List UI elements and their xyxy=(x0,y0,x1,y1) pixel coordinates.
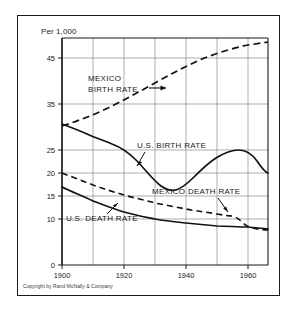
annotation-us-death-rate-arrowhead xyxy=(113,203,118,207)
y-tick-labels: 45 35 25 20 15 10 0 xyxy=(47,54,55,270)
annotation-mexico-death-rate-label: MEXICO DEATH RATE xyxy=(152,187,240,196)
x-tick-labels: 1900 1920 1940 1960 xyxy=(54,271,257,280)
x-tick-1960: 1960 xyxy=(240,271,257,280)
annotation-mexico-birth-rate-line2: BIRTH RATE xyxy=(88,85,138,94)
y-tick-25: 25 xyxy=(47,146,55,155)
y-tick-0: 0 xyxy=(51,261,55,270)
x-gridlines xyxy=(93,38,248,265)
annotation-mexico-death-rate-arrowhead xyxy=(223,207,228,212)
copyright-notice: Copyright by Rand McNally & Company xyxy=(23,283,113,289)
chart-page: Per 1,000 xyxy=(0,0,299,313)
annotation-us-birth-rate-label: U.S. BIRTH RATE xyxy=(137,141,206,150)
annotation-us-birth-rate: U.S. BIRTH RATE xyxy=(137,141,206,166)
x-tick-marks xyxy=(62,265,248,269)
annotation-mexico-death-rate: MEXICO DEATH RATE xyxy=(152,187,240,212)
x-tick-1900: 1900 xyxy=(54,271,71,280)
annotation-mexico-birth-rate-arrowhead xyxy=(161,86,167,91)
y-tick-15: 15 xyxy=(47,192,55,201)
x-tick-1940: 1940 xyxy=(178,271,195,280)
line-chart: 45 35 25 20 15 10 0 1900 1920 1940 1960 xyxy=(0,0,299,313)
y-tick-20: 20 xyxy=(47,169,55,178)
y-tick-10: 10 xyxy=(47,215,55,224)
y-tick-45: 45 xyxy=(47,54,55,63)
annotation-us-death-rate-label: U.S. DEATH RATE xyxy=(66,214,138,223)
y-tick-35: 35 xyxy=(47,100,55,109)
x-tick-1920: 1920 xyxy=(116,271,133,280)
annotation-mexico-birth-rate-line1: MEXICO xyxy=(88,74,121,83)
